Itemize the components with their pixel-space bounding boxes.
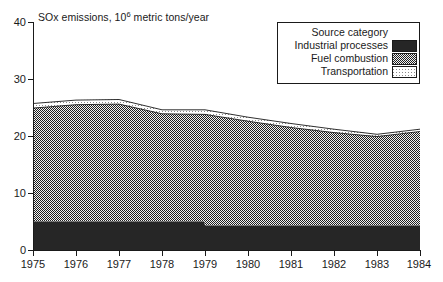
- series-areas-group: [33, 100, 420, 251]
- chart-legend: Source category Industrial processes Fue…: [278, 23, 420, 84]
- legend-label-transportation: Transportation: [321, 65, 388, 77]
- x-tick-label-1979: 1979: [193, 258, 217, 270]
- series-area-fuel-combustion: [33, 104, 420, 225]
- x-tick-label-1980: 1980: [236, 258, 260, 270]
- legend-label-industrial-processes: Industrial processes: [295, 39, 388, 51]
- y-tick-label-10: 10: [14, 187, 26, 199]
- legend-title: Source category: [312, 26, 389, 38]
- x-tick-label-1977: 1977: [107, 258, 131, 270]
- x-tick-label-1981: 1981: [279, 258, 303, 270]
- legend-item-fuel-combustion[interactable]: Fuel combustion: [311, 52, 417, 65]
- solid-black-swatch: [393, 41, 417, 52]
- y-tick-label-0: 0: [20, 244, 26, 256]
- x-tick-label-1984: 1984: [407, 258, 431, 270]
- x-tick-label-1978: 1978: [150, 258, 174, 270]
- x-tick-label-1976: 1976: [64, 258, 88, 270]
- x-tick-label-1982: 1982: [322, 258, 346, 270]
- series-area-industrial-processes: [33, 222, 420, 251]
- y-axis-tick-labels: 40 30 20 10 0: [14, 16, 26, 256]
- dark-checker-swatch: [393, 54, 417, 65]
- x-tick-label-1975: 1975: [21, 258, 45, 270]
- legend-item-industrial-processes[interactable]: Industrial processes: [295, 39, 417, 52]
- legend-item-transportation[interactable]: Transportation: [321, 65, 417, 78]
- y-axis-ticks: [28, 23, 33, 251]
- light-dots-swatch: [393, 67, 417, 78]
- sox-emissions-area-chart: SOx emissions, 106 metric tons/year: [0, 0, 443, 282]
- y-tick-label-20: 20: [14, 130, 26, 142]
- x-tick-label-1983: 1983: [365, 258, 389, 270]
- y-tick-label-40: 40: [14, 16, 26, 28]
- plot-svg: 40 30 20 10 0 1975 1976 1977 1978 1979: [0, 0, 443, 282]
- x-axis-tick-labels: 1975 1976 1977 1978 1979 1980 1981 1982 …: [21, 258, 431, 270]
- legend-label-fuel-combustion: Fuel combustion: [311, 52, 388, 64]
- y-tick-label-30: 30: [14, 73, 26, 85]
